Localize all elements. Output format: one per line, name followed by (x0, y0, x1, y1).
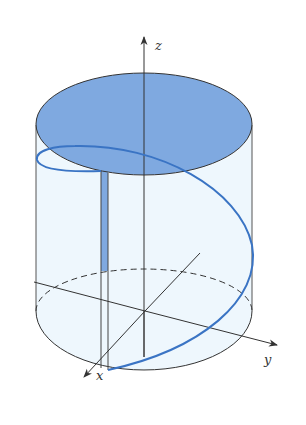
cylinder-helix-diagram: z y x (0, 0, 306, 425)
z-axis-label: z (154, 38, 162, 53)
y-axis-label: y (263, 352, 272, 367)
x-axis-label: x (96, 368, 104, 383)
vertical-strip-fill (101, 171, 108, 271)
diagram-svg: z y x (0, 0, 306, 425)
